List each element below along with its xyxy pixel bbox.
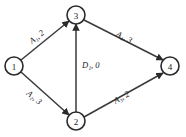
edge-label-1-to-3: A₁, 2 (26, 27, 47, 46)
node-4[interactable]: 4 (161, 57, 179, 75)
node-4-label: 4 (168, 62, 173, 72)
edge-labels-group: A₁, 2 A₂, 3 D₁, 0 A₄, 3 A₃, 2 (24, 27, 134, 106)
node-1[interactable]: 1 (5, 57, 23, 75)
edge-label-2-to-4: A₃, 2 (111, 88, 132, 105)
diagram-canvas: 1 3 2 4 A₁, 2 A₂, 3 D₁, 0 A₄, 3 A₃, 2 (0, 0, 186, 137)
node-1-label: 1 (12, 62, 17, 72)
node-3-label: 3 (74, 11, 79, 21)
node-2[interactable]: 2 (67, 112, 85, 130)
edge-label-3-to-4: A₄, 3 (114, 28, 134, 45)
node-3[interactable]: 3 (67, 6, 85, 24)
edge-label-2-to-3: D₁, 0 (81, 60, 100, 70)
node-2-label: 2 (74, 117, 79, 127)
network-diagram: 1 3 2 4 A₁, 2 A₂, 3 D₁, 0 A₄, 3 A₃, 2 (0, 0, 186, 137)
